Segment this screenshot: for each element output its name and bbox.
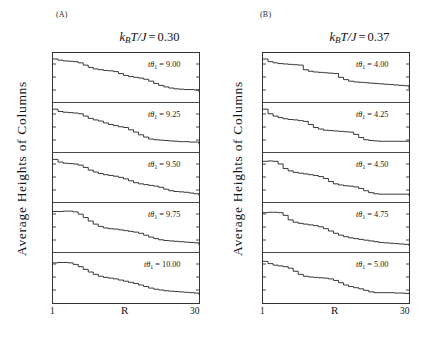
panel-a-x-tick-max: 30 [190, 306, 200, 316]
sublabel-sub: 1 [154, 164, 157, 170]
panel-b-sublabel-1: tθ1 = 4.25 [356, 110, 388, 120]
panel-b-title-eq: = [357, 30, 368, 44]
panel-b-title-value: 0.37 [368, 30, 390, 44]
sublabel-eq: = [367, 60, 372, 69]
panel-b-x-axis-label: R [331, 304, 338, 316]
sublabel-value: 4.25 [374, 110, 388, 119]
sublabel-eq: = [367, 260, 372, 269]
figure-root: (A) kBT/J=0.30 Average Heights of Column… [0, 0, 431, 339]
panel-a-plot-area: tθ1 = 9.00 tθ1 = 9.25 tθ1 = 9.50 tθ1 = 9… [52, 52, 200, 304]
panel-b-plot-area: tθ1 = 4.00 tθ1 = 4.25 tθ1 = 4.50 tθ1 = 4… [262, 52, 410, 304]
sublabel-value: 9.00 [166, 60, 180, 69]
sublabel-eq: = [159, 110, 164, 119]
sublabel-value: 4.00 [374, 60, 388, 69]
sublabel-sub: 1 [362, 164, 365, 170]
panel-b-tag: (B) [260, 10, 271, 19]
panel-a-title-value: 0.30 [158, 30, 180, 44]
panel-b-sublabel-0: tθ1 = 4.00 [356, 60, 388, 70]
sublabel-value: 9.50 [166, 160, 180, 169]
sublabel-sub: 1 [154, 214, 157, 220]
panel-b-ticks [263, 64, 410, 290]
sublabel-value: 10.00 [162, 260, 180, 269]
sublabel-eq: = [159, 210, 164, 219]
sublabel-sub: 1 [362, 114, 365, 120]
sublabel-value: 4.75 [374, 210, 388, 219]
sublabel-eq: = [367, 160, 372, 169]
panel-b-x-tick-max: 30 [400, 306, 410, 316]
sublabel-value: 9.75 [166, 210, 180, 219]
panel-a-x-tick-min: 1 [50, 306, 55, 316]
sublabel-sub: 1 [150, 264, 153, 270]
sublabel-eq: = [159, 60, 164, 69]
panel-b-sublabel-3: tθ1 = 4.75 [356, 210, 388, 220]
panel-a-title-mid: T/J [131, 30, 147, 44]
sublabel-eq: = [367, 210, 372, 219]
panel-a-x-axis-label: R [121, 304, 128, 316]
panel-a-ticks [53, 64, 200, 290]
panel-a-sublabel-4: tθ1 = 10.00 [144, 260, 180, 270]
panel-b-y-axis-label: Average Heights of Columns [230, 41, 252, 296]
sublabel-value: 4.50 [374, 160, 388, 169]
sublabel-sub: 1 [154, 64, 157, 70]
sublabel-value: 5.00 [374, 260, 388, 269]
panel-b-sublabel-2: tθ1 = 4.50 [356, 160, 388, 170]
panel-b-sublabel-4: tθ1 = 5.00 [356, 260, 388, 270]
panel-a-sublabel-2: tθ1 = 9.50 [148, 160, 180, 170]
panel-a-sublabel-3: tθ1 = 9.75 [148, 210, 180, 220]
sublabel-sub: 1 [362, 264, 365, 270]
sublabel-sub: 1 [154, 114, 157, 120]
panel-b-curves [263, 59, 409, 294]
panel-a: (A) kBT/J=0.30 Average Heights of Column… [0, 0, 215, 339]
panel-a-sublabel-1: tθ1 = 9.25 [148, 110, 180, 120]
panel-b: (B) kBT/J=0.37 Average Heights of Column… [216, 0, 431, 339]
sublabel-value: 9.25 [166, 110, 180, 119]
sublabel-eq: = [155, 260, 160, 269]
panel-a-sublabel-0: tθ1 = 9.00 [148, 60, 180, 70]
sublabel-eq: = [159, 160, 164, 169]
panel-a-tag: (A) [56, 10, 68, 19]
panel-a-y-axis-label: Average Heights of Columns [14, 41, 36, 296]
sublabel-eq: = [367, 110, 372, 119]
sublabel-sub: 1 [362, 214, 365, 220]
panel-a-title-eq: = [147, 30, 158, 44]
panel-b-x-tick-min: 1 [260, 306, 265, 316]
sublabel-sub: 1 [362, 64, 365, 70]
panel-b-title-mid: T/J [341, 30, 357, 44]
